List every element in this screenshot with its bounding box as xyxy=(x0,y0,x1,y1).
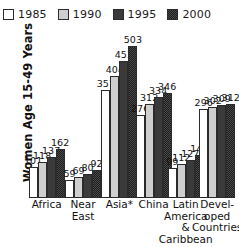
bar[interactable] xyxy=(47,157,56,198)
legend-item-1985: 1985 xyxy=(3,9,47,20)
bar-group: 296302309312 xyxy=(196,24,238,198)
legend-item-2000: 2000 xyxy=(167,9,211,20)
bar[interactable] xyxy=(38,162,47,198)
bar-wrap: 101 xyxy=(29,24,38,198)
bar[interactable] xyxy=(74,177,83,198)
bar-wrap: 276 xyxy=(136,24,145,198)
bar[interactable] xyxy=(208,107,217,198)
bar-value-label: 312 xyxy=(222,93,239,103)
bar-wrap: 127 xyxy=(186,24,195,198)
bar[interactable] xyxy=(199,109,208,198)
bar[interactable] xyxy=(226,104,235,198)
legend-label-1990: 1990 xyxy=(73,9,102,20)
legend-swatch-1995 xyxy=(113,9,124,20)
bar-wrap: 312 xyxy=(226,24,235,198)
legend-label-1985: 1985 xyxy=(18,9,47,20)
bar-wrap: 453 xyxy=(119,24,128,198)
bar[interactable] xyxy=(65,180,74,198)
bar[interactable] xyxy=(186,160,195,198)
bar[interactable] xyxy=(101,90,110,198)
bar-wrap: 334 xyxy=(154,24,163,198)
legend-label-1995: 1995 xyxy=(128,9,157,20)
bar-wrap: 312 xyxy=(145,24,154,198)
bar[interactable] xyxy=(83,174,92,198)
chart-legend: 1985 1990 1995 2000 xyxy=(3,5,236,23)
bar-group-bars: 296302309312 xyxy=(196,24,238,198)
x-axis-category-labels: AfricaNearEastAsia*ChinaLatinAmerica&Car… xyxy=(22,199,236,245)
x-axis-label: Devel-opedCountries xyxy=(183,199,239,234)
x-axis-label-line: Caribbean xyxy=(152,234,220,246)
bar[interactable] xyxy=(145,104,154,198)
legend-item-1990: 1990 xyxy=(58,9,102,20)
bar-wrap: 118 xyxy=(38,24,47,198)
bar[interactable] xyxy=(136,115,145,198)
bar[interactable] xyxy=(168,168,177,198)
bar[interactable] xyxy=(154,97,163,198)
bar[interactable] xyxy=(177,164,186,198)
bar[interactable] xyxy=(29,167,38,198)
plot-area: 1011181371625969809235740445350327631233… xyxy=(22,24,236,198)
bar[interactable] xyxy=(119,61,128,198)
x-axis-label-line: Devel- xyxy=(183,199,239,211)
bar-wrap: 309 xyxy=(217,24,226,198)
legend-swatch-2000 xyxy=(167,9,178,20)
bar-wrap: 296 xyxy=(199,24,208,198)
bar-wrap: 137 xyxy=(47,24,56,198)
bar-wrap: 302 xyxy=(208,24,217,198)
x-axis-label-line: East xyxy=(49,211,117,223)
x-axis-label-line: Countries xyxy=(183,222,239,234)
bar[interactable] xyxy=(217,105,226,198)
legend-item-1995: 1995 xyxy=(113,9,157,20)
bar-wrap: 99 xyxy=(168,24,177,198)
legend-swatch-1985 xyxy=(3,9,14,20)
bar-wrap: 112 xyxy=(177,24,186,198)
legend-label-2000: 2000 xyxy=(182,9,211,20)
bar-wrap: 357 xyxy=(101,24,110,198)
bar[interactable] xyxy=(110,76,119,198)
grouped-bar-chart: 1985 1990 1995 2000 Women Age 15-49 Year… xyxy=(0,0,239,247)
bar-wrap: 80 xyxy=(83,24,92,198)
legend-swatch-1990 xyxy=(58,9,69,20)
